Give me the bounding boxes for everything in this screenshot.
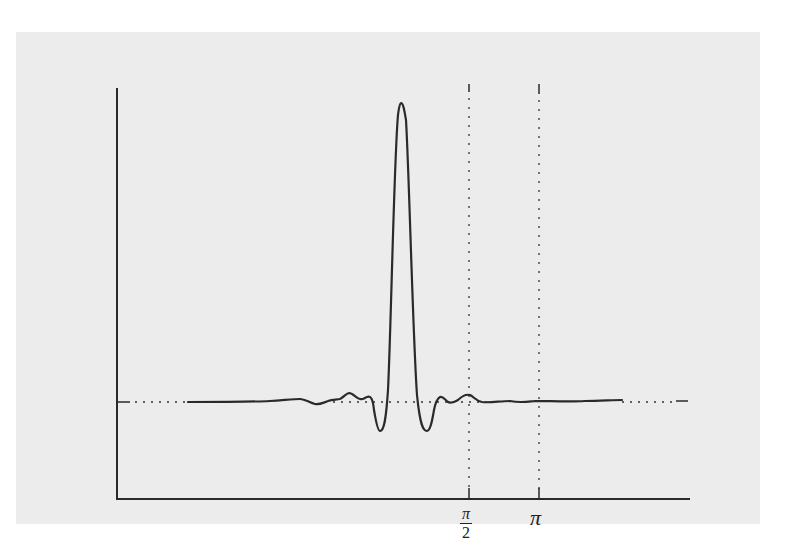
x-tick-label-pi: π xyxy=(530,507,541,529)
kernel-curve xyxy=(188,103,622,431)
x-tick-label-pi-half-denominator: 2 xyxy=(462,525,470,541)
chart-plot-area xyxy=(0,0,792,555)
x-tick-label-pi-half-numerator: π xyxy=(462,506,470,522)
x-tick-label-pi-half: π 2 xyxy=(460,506,472,541)
